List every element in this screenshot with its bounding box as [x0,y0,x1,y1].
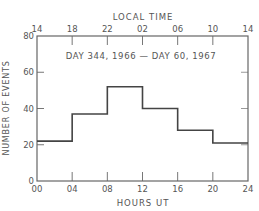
y-tick-label: 20 [23,140,34,150]
y-tick-label: 40 [23,104,34,114]
x-tick-label: 12 [137,184,148,194]
top-axis-label: LOCAL TIME [113,12,174,22]
chart-title: DAY 344, 1966 — DAY 60, 1967 [66,51,217,61]
top-tick-label: 14 [243,24,254,34]
x-tick-label: 00 [32,184,43,194]
y-axis-label: NUMBER OF EVENTS [2,60,11,155]
y-tick-label: 60 [23,67,34,77]
top-tick-label: 10 [207,24,218,34]
x-tick-label: 08 [102,184,113,194]
top-tick-label: 18 [67,24,78,34]
x-tick-label: 24 [243,184,254,194]
x-axis-label: HOURS UT [117,198,170,208]
histogram-step-line [37,87,248,143]
histogram-chart: LOCAL TIME 14182202061014 020406080 0004… [0,0,259,211]
y-tick-label: 80 [23,31,34,41]
top-tick-label: 02 [137,24,148,34]
top-tick-label: 22 [102,24,113,34]
top-tick-label: 06 [172,24,183,34]
x-tick-label: 16 [172,184,183,194]
x-axis-ticks: 00040812162024 [32,172,254,194]
x-tick-label: 20 [207,184,218,194]
x-tick-label: 04 [67,184,78,194]
top-axis-ticks: 14182202061014 [32,24,254,45]
